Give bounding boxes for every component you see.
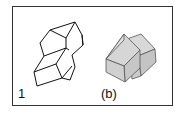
figure-label-1: 1: [18, 86, 25, 101]
shaded-block-figure: [0, 0, 178, 115]
figure-label-b: (b): [101, 86, 117, 101]
